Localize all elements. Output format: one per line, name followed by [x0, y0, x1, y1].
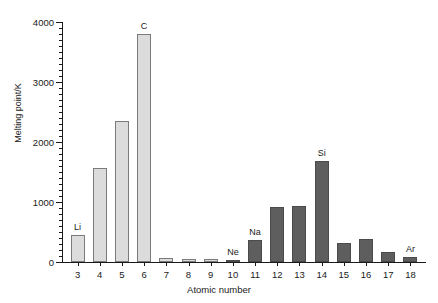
- x-tick: [410, 262, 411, 266]
- x-tick: [122, 262, 123, 266]
- bar-12[interactable]: [270, 207, 284, 262]
- bar-label-li: Li: [74, 222, 81, 232]
- x-tick: [366, 262, 367, 266]
- bar-17[interactable]: [381, 252, 395, 262]
- bar-8[interactable]: [182, 259, 196, 262]
- bar-4[interactable]: [93, 168, 107, 262]
- y-tick-minor: [59, 178, 63, 179]
- x-tick-label: 8: [186, 269, 191, 280]
- x-tick: [388, 262, 389, 266]
- y-tick-minor: [59, 76, 63, 77]
- bar-3[interactable]: [71, 235, 85, 262]
- x-tick-label: 12: [272, 269, 283, 280]
- bar-label-si: Si: [318, 148, 326, 158]
- bar-6[interactable]: [137, 34, 151, 262]
- x-tick-label: 9: [208, 269, 213, 280]
- x-axis-title: Atomic number: [0, 284, 438, 295]
- y-tick-minor: [59, 136, 63, 137]
- x-tick: [233, 262, 234, 266]
- x-tick: [78, 262, 79, 266]
- y-tick-minor: [59, 70, 63, 71]
- y-tick-minor: [59, 244, 63, 245]
- x-tick-label: 4: [97, 269, 102, 280]
- y-tick-minor: [59, 34, 63, 35]
- y-tick-major: [56, 202, 62, 203]
- melting-point-bar-chart: Melting point/K Atomic number 0100020003…: [0, 0, 438, 303]
- y-tick-minor: [59, 94, 63, 95]
- y-tick-minor: [59, 190, 63, 191]
- y-tick-minor: [59, 46, 63, 47]
- y-tick-minor: [59, 88, 63, 89]
- x-axis-line: [62, 262, 426, 263]
- y-tick-label: 1000: [33, 197, 54, 208]
- y-tick-minor: [59, 52, 63, 53]
- x-tick-label: 10: [228, 269, 239, 280]
- x-tick-label: 5: [119, 269, 124, 280]
- y-tick-minor: [59, 166, 63, 167]
- y-tick-minor: [59, 208, 63, 209]
- y-tick-minor: [59, 154, 63, 155]
- y-tick-minor: [59, 184, 63, 185]
- bar-label-ar: Ar: [406, 244, 415, 254]
- y-tick-minor: [59, 172, 63, 173]
- y-tick-minor: [59, 220, 63, 221]
- x-tick-label: 7: [164, 269, 169, 280]
- x-tick-label: 14: [316, 269, 327, 280]
- y-tick-major: [56, 142, 62, 143]
- y-tick-minor: [59, 118, 63, 119]
- bar-14[interactable]: [315, 161, 329, 262]
- y-tick-label: 2000: [33, 137, 54, 148]
- bar-16[interactable]: [359, 239, 373, 262]
- y-tick-minor: [59, 196, 63, 197]
- bar-label-na: Na: [249, 227, 261, 237]
- bar-label-ne: Ne: [227, 247, 239, 257]
- plot-area: 01000200030004000 3456789101112131415161…: [62, 22, 426, 262]
- x-tick-label: 16: [361, 269, 372, 280]
- y-tick-minor: [59, 40, 63, 41]
- bar-18[interactable]: [403, 257, 417, 262]
- bar-15[interactable]: [337, 243, 351, 262]
- x-tick-label: 18: [405, 269, 416, 280]
- bar-7[interactable]: [159, 258, 173, 262]
- x-tick: [322, 262, 323, 266]
- y-tick-label: 3000: [33, 77, 54, 88]
- x-tick: [144, 262, 145, 266]
- bar-9[interactable]: [204, 259, 218, 262]
- bar-10[interactable]: [226, 260, 240, 262]
- y-tick-minor: [59, 226, 63, 227]
- bar-13[interactable]: [292, 206, 306, 262]
- bar-5[interactable]: [115, 121, 129, 262]
- y-tick-minor: [59, 58, 63, 59]
- y-tick-minor: [59, 106, 63, 107]
- y-tick-major: [56, 22, 62, 23]
- y-tick-label: 0: [49, 257, 54, 268]
- y-tick-minor: [59, 238, 63, 239]
- y-tick-minor: [59, 148, 63, 149]
- x-tick: [166, 262, 167, 266]
- y-tick-minor: [59, 232, 63, 233]
- y-tick-minor: [59, 28, 63, 29]
- y-tick-minor: [59, 160, 63, 161]
- x-tick: [100, 262, 101, 266]
- x-tick-label: 13: [294, 269, 305, 280]
- x-tick-label: 15: [339, 269, 350, 280]
- y-tick-major: [56, 262, 62, 263]
- x-tick: [344, 262, 345, 266]
- y-tick-minor: [59, 112, 63, 113]
- y-tick-minor: [59, 100, 63, 101]
- y-axis-title: Melting point/K: [13, 48, 23, 178]
- x-tick: [255, 262, 256, 266]
- x-tick-label: 3: [75, 269, 80, 280]
- y-tick-minor: [59, 130, 63, 131]
- x-tick: [189, 262, 190, 266]
- y-tick-minor: [59, 256, 63, 257]
- x-tick: [299, 262, 300, 266]
- y-tick-minor: [59, 214, 63, 215]
- x-tick: [277, 262, 278, 266]
- x-tick-label: 6: [141, 269, 146, 280]
- bar-label-c: C: [141, 21, 148, 31]
- y-axis-line: [62, 22, 63, 263]
- bar-11[interactable]: [248, 240, 262, 262]
- y-tick-minor: [59, 250, 63, 251]
- y-tick-minor: [59, 64, 63, 65]
